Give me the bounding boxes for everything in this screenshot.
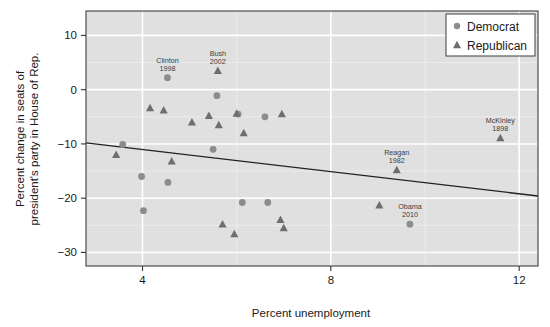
legend-label[interactable]: Republican [467,39,527,53]
x-tick-label: 4 [139,274,146,286]
data-point-circle [165,179,172,186]
y-tick-label: 0 [71,84,77,96]
point-label-year: 1898 [492,124,508,133]
data-point-circle [138,173,145,180]
data-point-circle [119,141,126,148]
legend-label[interactable]: Democrat [467,20,520,34]
point-label-year: 1982 [389,156,405,165]
x-tick-label: 8 [328,274,334,286]
y-tick-label: −30 [57,246,77,258]
x-axis-title: Percent unemployment [252,307,371,319]
y-axis-title-line1: Percent change in seats of [14,70,26,207]
y-tick-label: −10 [57,138,77,150]
point-label-year: 2002 [210,57,226,66]
y-tick-label: −20 [57,192,77,204]
data-point-circle [213,92,220,99]
data-point-circle [264,199,271,206]
data-point-circle [239,199,246,206]
point-label-year: 2010 [402,210,418,219]
legend-marker-circle [454,23,460,29]
data-point-circle [164,74,171,81]
y-tick-label: 10 [64,29,77,41]
point-label-year: 1998 [159,64,175,73]
y-axis-title-line2: president's party in House of Rep. [28,53,40,226]
chart-figure: 100−10−20−30 4812 Clinton1998Obama2010Bu… [0,0,550,327]
scatter-plot-svg: 100−10−20−30 4812 Clinton1998Obama2010Bu… [0,0,550,327]
data-point-circle [262,113,269,120]
data-point-circle [210,146,217,153]
data-point-circle [140,207,147,214]
data-point-circle [407,221,414,228]
legend[interactable]: DemocratRepublican [446,14,535,56]
x-tick-label: 12 [513,274,526,286]
